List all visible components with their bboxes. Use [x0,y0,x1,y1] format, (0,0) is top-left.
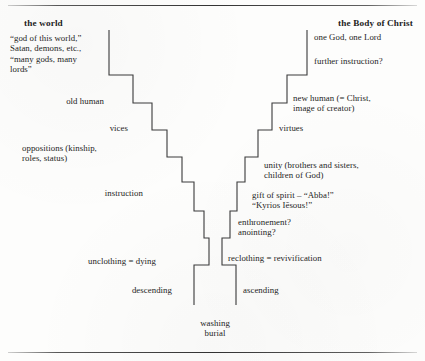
label-unity: unity (brothers and sisters, children of… [264,160,422,181]
label-gift-of-spirit: gift of spirit – “Abba!” “Kyrios Iēsous!… [252,190,402,211]
diagram-figure: the world the Body of Christ “god of thi… [0,0,425,361]
label-old-human: old human [24,96,104,106]
label-worldly-powers: “god of this world,” Satan, demons, etc.… [10,33,106,75]
label-enthronement-anointing: enthronement? anointing? [238,217,378,238]
label-instruction: instruction [48,188,143,198]
label-new-human: new human (= Christ, image of creator) [293,93,423,114]
label-descending: descending [72,285,172,295]
header-left-the-world: the world [24,18,63,28]
label-ascending: ascending [243,285,353,295]
label-vices: vices [44,123,128,133]
label-washing-burial: washing burial [175,318,255,339]
label-reclothing-revivification: reclothing = revivification [228,253,398,263]
label-oppositions: oppositions (kinship, roles, status) [22,143,152,164]
label-virtues: virtues [279,123,379,133]
label-further-instruction: further instruction? [314,56,424,66]
label-unclothing-dying: unclothing = dying [48,256,156,266]
label-one-god-one-lord: one God, one Lord [314,32,424,42]
header-right-body-of-christ: the Body of Christ [253,18,413,28]
